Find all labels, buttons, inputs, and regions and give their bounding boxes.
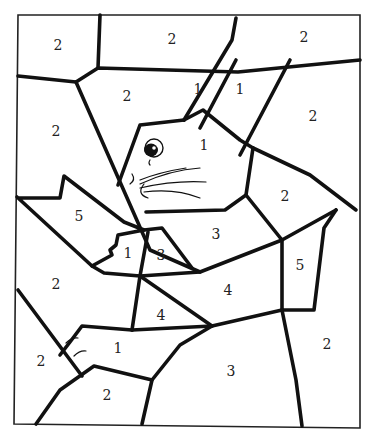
region-number: 3 [157, 247, 166, 263]
region-number: 2 [52, 123, 61, 139]
region-number: 1 [236, 81, 245, 97]
region-number: 1 [114, 340, 123, 356]
region-number: 2 [54, 37, 63, 53]
region-number: 2 [323, 336, 332, 352]
region-number: 2 [52, 276, 61, 292]
region-number: 2 [300, 29, 309, 45]
region-number: 4 [157, 307, 166, 323]
region-number: 2 [37, 353, 46, 369]
region-number: 2 [168, 31, 177, 47]
region-numbers: 2 2 2 2 1 1 2 2 1 2 5 3 1 3 5 2 4 4 2 1 … [37, 29, 332, 403]
coloring-page: 2 2 2 2 1 1 2 2 1 2 5 3 1 3 5 2 4 4 2 1 … [0, 0, 372, 434]
region-number: 5 [75, 208, 84, 224]
region-number: 3 [212, 226, 221, 242]
eye-pupil [144, 144, 158, 157]
region-number: 1 [194, 81, 203, 97]
region-number: 3 [227, 363, 236, 379]
region-number: 2 [309, 108, 318, 124]
region-number: 4 [224, 282, 233, 298]
region-number: 2 [123, 88, 132, 104]
region-number: 1 [200, 137, 209, 153]
region-number: 2 [281, 188, 290, 204]
rabbit-drawing: 2 2 2 2 1 1 2 2 1 2 5 3 1 3 5 2 4 4 2 1 … [0, 0, 372, 434]
region-number: 1 [124, 245, 133, 261]
region-number: 2 [103, 387, 112, 403]
page-frame [14, 15, 360, 428]
region-number: 5 [296, 257, 305, 273]
